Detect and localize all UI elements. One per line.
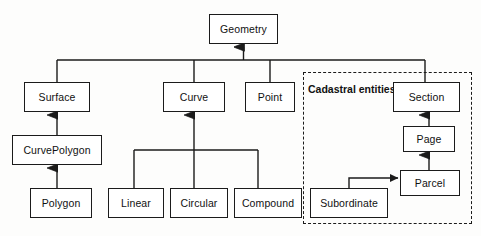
node-polygon[interactable]: Polygon <box>30 188 92 218</box>
node-label-compound: Compound <box>242 198 294 209</box>
node-label-section: Section <box>409 92 445 103</box>
node-label-surface: Surface <box>39 92 76 103</box>
node-label-point: Point <box>258 92 282 103</box>
node-surface[interactable]: Surface <box>24 82 90 112</box>
node-label-curve: Curve <box>180 92 209 103</box>
node-label-linear: Linear <box>121 198 151 209</box>
node-curve[interactable]: Curve <box>163 82 225 112</box>
node-label-circular: Circular <box>181 198 218 209</box>
node-linear[interactable]: Linear <box>108 188 164 218</box>
node-circular[interactable]: Circular <box>170 188 228 218</box>
node-curvepolygon[interactable]: CurvePolygon <box>12 135 102 165</box>
node-parcel[interactable]: Parcel <box>400 170 460 196</box>
node-label-page: Page <box>417 134 442 145</box>
node-label-polygon: Polygon <box>42 198 81 209</box>
node-label-parcel: Parcel <box>415 178 445 189</box>
node-section[interactable]: Section <box>393 82 460 112</box>
node-label-curvepolygon: CurvePolygon <box>23 145 90 156</box>
node-subordinate[interactable]: Subordinate <box>310 188 388 218</box>
node-point[interactable]: Point <box>245 82 295 112</box>
diagram-canvas: Cadastral entities Geometry Surface Curv… <box>0 0 481 236</box>
node-page[interactable]: Page <box>403 126 455 152</box>
node-label-subordinate: Subordinate <box>320 198 378 209</box>
node-geometry[interactable]: Geometry <box>209 14 278 44</box>
node-compound[interactable]: Compound <box>234 188 302 218</box>
cadastral-entities-label: Cadastral entities <box>308 84 396 95</box>
node-label-geometry: Geometry <box>220 24 267 35</box>
